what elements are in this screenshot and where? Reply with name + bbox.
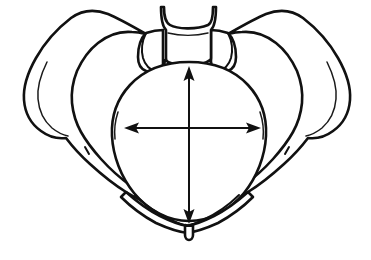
pelvis-diagram-figure: Pelvic inlet with anteroposterior and tr… xyxy=(0,0,371,260)
pelvis-illustration xyxy=(0,0,371,260)
pubic-symphysis xyxy=(185,225,193,240)
